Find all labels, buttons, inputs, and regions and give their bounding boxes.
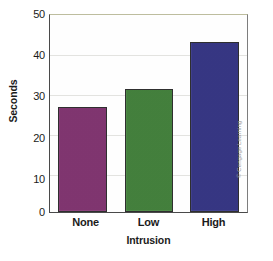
y-axis-tick-label: 10 bbox=[21, 173, 45, 185]
x-axis-title: Intrusion bbox=[49, 234, 248, 246]
bar-high bbox=[190, 42, 239, 212]
y-axis-tick-label: 30 bbox=[21, 90, 45, 102]
bar-chart-figure: Seconds 50 40 30 20 10 0 None Low High I… bbox=[0, 0, 273, 261]
y-axis-tick-label: 50 bbox=[21, 8, 45, 20]
y-axis-tick-label: 20 bbox=[21, 132, 45, 144]
x-axis-tick-label: Low bbox=[112, 216, 185, 228]
y-axis-tick-label: 40 bbox=[21, 49, 45, 61]
y-axis-tick-label: 0 bbox=[21, 206, 45, 218]
y-axis-tick-labels: 50 40 30 20 10 0 bbox=[21, 0, 45, 261]
x-axis-tick-label: High bbox=[177, 216, 250, 228]
x-axis-tick-labels: None Low High bbox=[49, 216, 248, 234]
bar-low bbox=[125, 89, 173, 212]
bar-none bbox=[58, 107, 107, 212]
copyright-credit: © Cengage Learning bbox=[236, 98, 242, 178]
plot-area bbox=[49, 14, 248, 213]
y-axis-title: Seconds bbox=[7, 71, 19, 131]
